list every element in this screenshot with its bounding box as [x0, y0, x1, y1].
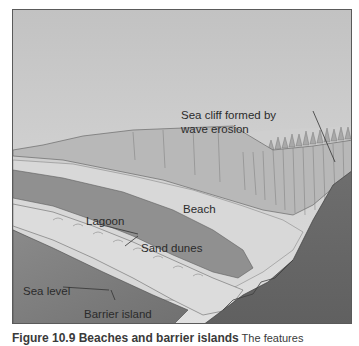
label-beach: Beach — [183, 203, 216, 216]
label-barrier-island: Barrier island — [84, 308, 152, 321]
caption-rest: The features — [239, 332, 304, 344]
label-sea-cliff-line1: Sea cliff formed by — [181, 109, 276, 122]
label-sand-dunes: Sand dunes — [141, 242, 202, 255]
label-sea-cliff-line2: wave erosion — [181, 123, 249, 136]
label-sea-level: Sea level — [23, 285, 70, 298]
label-lagoon: Lagoon — [86, 215, 124, 228]
caption-title: Figure 10.9 Beaches and barrier islands — [12, 331, 239, 345]
figure-caption: Figure 10.9 Beaches and barrier islands … — [12, 331, 303, 345]
coastal-illustration — [13, 10, 352, 324]
beach-diagram-figure: Sea cliff formed by wave erosion Beach L… — [12, 9, 352, 324]
